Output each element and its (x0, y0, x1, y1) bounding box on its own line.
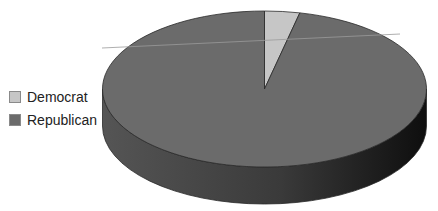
legend-swatch-democrat (9, 91, 21, 103)
legend-item-democrat: Democrat (9, 85, 97, 108)
legend-label-republican: Republican (27, 112, 97, 128)
pie-top-face (103, 11, 427, 167)
legend-item-republican: Republican (9, 108, 97, 131)
legend: Democrat Republican (9, 85, 97, 131)
legend-label-democrat: Democrat (27, 89, 88, 105)
pie-slice-republican (103, 11, 427, 167)
legend-swatch-republican (9, 114, 21, 126)
